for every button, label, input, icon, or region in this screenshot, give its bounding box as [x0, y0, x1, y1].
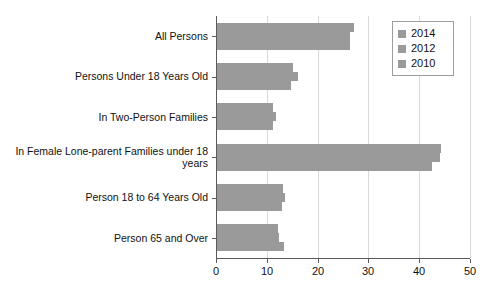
x-tick-mark-20 [318, 259, 319, 263]
gridline-x-50 [470, 16, 471, 258]
y-axis-line [216, 16, 217, 258]
bar-2010-cat1 [217, 81, 291, 90]
x-tick-mark-40 [419, 259, 420, 263]
x-tick-label-40: 40 [404, 265, 434, 277]
bar-2014-cat4 [217, 184, 283, 193]
x-tick-mark-50 [470, 259, 471, 263]
legend-swatch-icon-2012 [398, 45, 406, 53]
x-tick-mark-0 [216, 259, 217, 263]
x-tick-label-30: 30 [353, 265, 383, 277]
x-tick-label-0: 0 [201, 265, 231, 277]
x-tick-label-50: 50 [455, 265, 485, 277]
category-label-2: In Two-Person Families [6, 111, 208, 124]
category-label-4: Person 18 to 64 Years Old [6, 191, 208, 204]
bar-2012-cat1 [217, 72, 298, 81]
bar-2010-cat0 [217, 41, 350, 50]
bar-2010-cat2 [217, 121, 273, 130]
legend-item-2014[interactable]: 2014 [398, 26, 448, 41]
bar-2014-cat2 [217, 103, 273, 112]
legend-swatch-icon-2014 [398, 30, 406, 38]
bar-2012-cat5 [217, 233, 279, 242]
gridline-x-30 [368, 16, 369, 258]
bar-2012-cat0 [217, 32, 350, 41]
bar-2014-cat0 [217, 23, 354, 32]
gridline-x-20 [318, 16, 319, 258]
category-label-0: All Persons [6, 30, 208, 43]
x-tick-mark-10 [267, 259, 268, 263]
bar-2010-cat4 [217, 202, 282, 211]
bar-2012-cat2 [217, 112, 276, 121]
bar-2010-cat5 [217, 242, 284, 251]
legend-label-2012: 2012 [411, 43, 435, 54]
x-axis-line [216, 258, 470, 259]
legend-swatch-icon-2010 [398, 60, 406, 68]
bar-chart: All PersonsPersons Under 18 Years OldIn … [0, 0, 488, 288]
legend-item-2010[interactable]: 2010 [398, 56, 448, 71]
legend-label-2014: 2014 [411, 28, 435, 39]
legend-item-2012[interactable]: 2012 [398, 41, 448, 56]
bar-2014-cat5 [217, 224, 278, 233]
gridline-x-10 [267, 16, 268, 258]
legend-label-2010: 2010 [411, 58, 435, 69]
category-label-1: Persons Under 18 Years Old [6, 70, 208, 83]
bar-2014-cat3 [217, 144, 441, 153]
legend: 201420122010 [392, 21, 454, 76]
x-tick-label-20: 20 [303, 265, 333, 277]
category-label-3: In Female Lone-parent Families under 18 … [6, 145, 208, 170]
x-tick-label-10: 10 [252, 265, 282, 277]
bar-2012-cat3 [217, 153, 440, 162]
bar-2010-cat3 [217, 162, 432, 171]
category-label-5: Person 65 and Over [6, 232, 208, 245]
bar-2012-cat4 [217, 193, 285, 202]
bar-2014-cat1 [217, 63, 293, 72]
x-tick-mark-30 [368, 259, 369, 263]
